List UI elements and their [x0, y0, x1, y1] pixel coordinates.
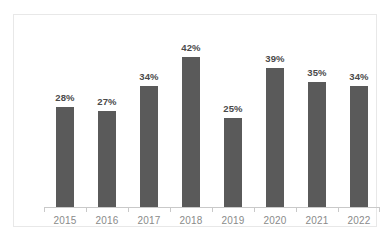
- bar-group-2017[interactable]: 34%: [128, 29, 170, 207]
- axis-label-2020: 2020: [254, 215, 296, 226]
- axis-tick: [296, 207, 297, 212]
- bar-group-2018[interactable]: 42%: [170, 29, 212, 207]
- bar-value-label: 27%: [86, 96, 128, 107]
- bar-value-label: 42%: [170, 42, 212, 53]
- bar-rect[interactable]: [224, 118, 242, 207]
- bar-value-label: 34%: [338, 71, 380, 82]
- bar-rect[interactable]: [56, 107, 74, 207]
- bar-value-label: 39%: [254, 53, 296, 64]
- axis-label-2022: 2022: [338, 215, 380, 226]
- bar-group-2015[interactable]: 28%: [44, 29, 86, 207]
- bar-rect[interactable]: [308, 82, 326, 207]
- axis-tick: [128, 207, 129, 212]
- bar-rect[interactable]: [182, 57, 200, 207]
- bars-layer: 28% 27% 34% 42% 25% 39%: [44, 29, 380, 207]
- axis-tick: [254, 207, 255, 212]
- bar-rect[interactable]: [140, 86, 158, 207]
- axis-label-2019: 2019: [212, 215, 254, 226]
- bar-group-2020[interactable]: 39%: [254, 29, 296, 207]
- axis-tick: [170, 207, 171, 212]
- bar-value-label: 34%: [128, 71, 170, 82]
- axis-tick: [338, 207, 339, 212]
- axis-tick: [379, 207, 380, 212]
- axis-label-2016: 2016: [86, 215, 128, 226]
- axis-label-2018: 2018: [170, 215, 212, 226]
- bar-group-2021[interactable]: 35%: [296, 29, 338, 207]
- axis-label-2021: 2021: [296, 215, 338, 226]
- bar-value-label: 25%: [212, 103, 254, 114]
- axis-label-2017: 2017: [128, 215, 170, 226]
- bar-value-label: 35%: [296, 67, 338, 78]
- bar-value-label: 28%: [44, 92, 86, 103]
- bar-rect[interactable]: [266, 68, 284, 207]
- axis-tick: [44, 207, 45, 212]
- axis-label-2015: 2015: [44, 215, 86, 226]
- plot-area: 28% 27% 34% 42% 25% 39%: [44, 29, 380, 240]
- bar-rect[interactable]: [98, 111, 116, 207]
- axis-tick: [212, 207, 213, 212]
- bar-rect[interactable]: [350, 86, 368, 207]
- bar-group-2019[interactable]: 25%: [212, 29, 254, 207]
- bar-group-2016[interactable]: 27%: [86, 29, 128, 207]
- bar-group-2022[interactable]: 34%: [338, 29, 380, 207]
- chart-frame: 28% 27% 34% 42% 25% 39%: [13, 14, 377, 227]
- axis-tick: [86, 207, 87, 212]
